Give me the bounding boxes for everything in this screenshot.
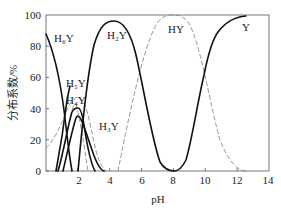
label-h6y: H₆Y	[54, 32, 74, 44]
y-tick-60: 60	[30, 71, 42, 83]
curve-h2y	[78, 21, 174, 171]
label-h3y: H₃Y	[99, 120, 119, 132]
label-h4y: H₄Y	[66, 94, 86, 106]
curve-y	[174, 16, 246, 171]
x-tick-4: 4	[107, 174, 113, 186]
y-tick-20: 20	[30, 134, 42, 146]
label-y: Y	[242, 21, 250, 33]
distribution-chart: 0 20 40 60 80 100 2 4 6 8 10 12 14 pH 分布…	[0, 0, 281, 212]
label-hy: HY	[168, 23, 184, 35]
y-tick-40: 40	[30, 103, 42, 115]
x-tick-2: 2	[76, 174, 82, 186]
y-tick-0: 0	[36, 165, 42, 177]
y-tick-100: 100	[25, 9, 42, 21]
x-tick-14: 14	[263, 174, 275, 186]
x-tick-12: 12	[232, 174, 243, 186]
label-h5y: H₅Y	[66, 77, 86, 89]
x-tick-10: 10	[200, 174, 212, 186]
curve-hy	[118, 15, 246, 171]
x-tick-6: 6	[139, 174, 145, 186]
y-tick-80: 80	[30, 40, 42, 52]
y-axis-label: 分布系数/%	[7, 65, 19, 121]
x-tick-8: 8	[170, 174, 176, 186]
label-h2y: H₂Y	[107, 29, 127, 41]
x-axis-label: pH	[151, 193, 165, 205]
